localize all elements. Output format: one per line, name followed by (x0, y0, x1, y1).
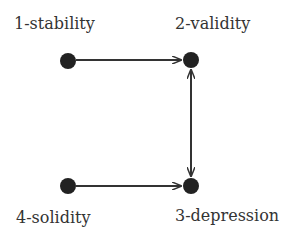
node-2-label: 2-validity (175, 14, 250, 33)
node-3 (183, 178, 199, 194)
node-2 (183, 52, 199, 68)
node-4 (60, 178, 76, 194)
graph-diagram: 1-stability 2-validity 3-depression 4-so… (0, 0, 303, 241)
node-3-label: 3-depression (175, 206, 279, 225)
node-1 (60, 53, 76, 69)
node-4-label: 4-solidity (16, 208, 91, 227)
node-1-label: 1-stability (14, 14, 95, 33)
